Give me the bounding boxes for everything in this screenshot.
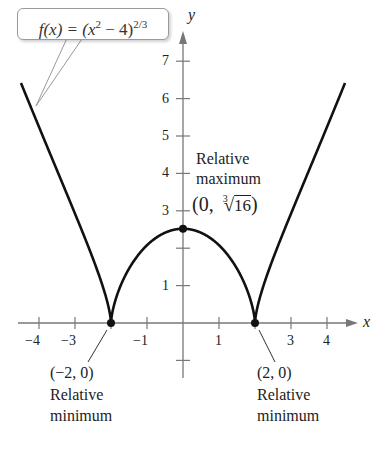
y-tick-label: 3 [162, 202, 169, 219]
callout-pointer [36, 36, 84, 106]
y-tick-label: 5 [162, 127, 169, 144]
x-axis-arrow-icon [346, 319, 358, 327]
min-left-coord: (−2, 0) [50, 364, 94, 381]
max-annotation-coord: (0, 3√16) [192, 192, 258, 214]
x-axis-label: x [363, 313, 370, 330]
min-right-coord: (2, 0) [257, 364, 292, 381]
extremum-point [251, 319, 259, 327]
y-tick-label: 7 [162, 52, 169, 69]
function-label-mid: − 4) [101, 20, 133, 39]
y-tick-label: 1 [162, 277, 169, 294]
max-annotation-line2: maximum [196, 170, 261, 187]
x-tick-label: −1 [133, 332, 148, 349]
max-coord-close: ) [251, 193, 258, 215]
max-coord-open: (0, [192, 193, 219, 215]
extremum-point [107, 319, 115, 327]
min-left-line2: minimum [50, 407, 112, 424]
x-tick-label: −4 [25, 332, 40, 349]
extremum-point [179, 225, 187, 233]
function-label-exp2: 2/3 [133, 18, 147, 30]
leader-right-min [259, 330, 275, 362]
x-tick-label: 4 [323, 332, 330, 349]
x-tick-label: 1 [215, 332, 222, 349]
max-root-index: 3 [223, 193, 228, 204]
leader-left-min [88, 330, 107, 362]
x-tick-label: −3 [61, 332, 76, 349]
y-axis-arrow-icon [179, 31, 187, 44]
min-right-line2: minimum [257, 407, 319, 424]
y-tick-label: 6 [162, 90, 169, 107]
x-tick-label: 3 [287, 332, 294, 349]
y-tick-label: 4 [162, 164, 169, 181]
max-root-radicand: 16 [234, 196, 251, 215]
function-label-prefix: f(x) = (x [39, 20, 96, 39]
max-annotation-line1: Relative [196, 150, 249, 167]
min-left-line1: Relative [50, 386, 103, 403]
function-label-callout: f(x) = (x2 − 4)2/3 [17, 8, 169, 40]
y-axis-label: y [188, 6, 195, 23]
min-right-line1: Relative [257, 386, 310, 403]
